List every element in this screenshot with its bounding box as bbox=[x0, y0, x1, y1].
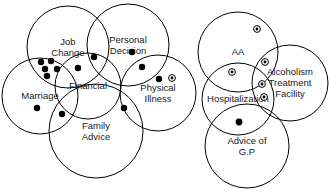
marker-circled-dot bbox=[229, 69, 236, 76]
marker-filled-dot bbox=[236, 119, 243, 126]
venn-diagram-canvas: JobChangePersonalDecisionMarriageFinanci… bbox=[0, 0, 329, 194]
marker-center-dot bbox=[171, 77, 174, 80]
venn-label-hospitalization: Hospitalization bbox=[207, 93, 269, 104]
venn-label-job-change: JobChange bbox=[51, 35, 84, 57]
marker-filled-dot bbox=[34, 105, 40, 111]
marker-center-dot bbox=[261, 83, 264, 86]
venn-label-marriage: Marriage bbox=[21, 90, 59, 101]
marker-center-dot bbox=[256, 28, 259, 31]
marker-filled-dot bbox=[48, 58, 54, 64]
marker-circled-dot bbox=[262, 59, 269, 66]
marker-center-dot bbox=[263, 96, 266, 99]
marker-center-dot bbox=[231, 71, 234, 74]
marker-filled-dot bbox=[156, 76, 162, 82]
marker-circled-dot bbox=[254, 26, 261, 33]
marker-filled-dot bbox=[121, 105, 127, 111]
marker-filled-dot bbox=[75, 65, 81, 71]
marker-filled-dot bbox=[42, 66, 48, 72]
marker-filled-dot bbox=[38, 59, 44, 65]
venn-label-financial: Financial bbox=[69, 80, 107, 91]
marker-filled-dot bbox=[139, 64, 145, 70]
marker-circled-dot bbox=[169, 75, 176, 82]
marker-center-dot bbox=[264, 61, 267, 64]
marker-circled-dot bbox=[259, 81, 266, 88]
venn-label-physical-illness: PhysicalIllness bbox=[140, 81, 175, 103]
venn-label-family-advice: FamilyAdvice bbox=[82, 119, 111, 141]
marker-filled-dot bbox=[129, 49, 135, 55]
venn-label-advice-of-gp: Advice ofG.P bbox=[227, 134, 266, 156]
marker-filled-dot bbox=[91, 54, 97, 60]
marker-circled-dot bbox=[261, 94, 268, 101]
marker-filled-dot bbox=[44, 73, 50, 79]
marker-filled-dot bbox=[54, 66, 60, 72]
venn-diagram-svg: JobChangePersonalDecisionMarriageFinanci… bbox=[0, 0, 329, 194]
marker-filled-dot bbox=[59, 111, 65, 117]
venn-label-personal-decision: PersonalDecision bbox=[109, 33, 147, 55]
venn-label-aa: AA bbox=[232, 46, 245, 57]
